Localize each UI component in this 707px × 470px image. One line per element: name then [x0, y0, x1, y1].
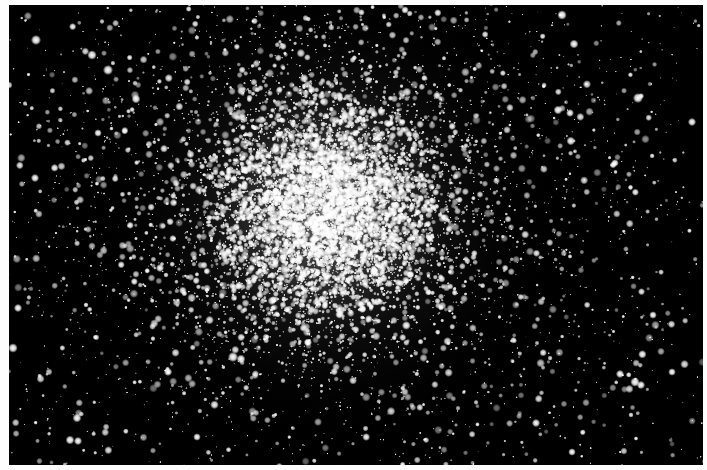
globular-cluster-photo [9, 5, 703, 465]
image-caption: Black-and-white astronomical photograph … [0, 0, 1, 1]
photo-frame: Black-and-white astronomical photograph … [0, 0, 707, 470]
